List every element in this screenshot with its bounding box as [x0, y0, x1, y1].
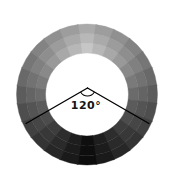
angle-arc: [81, 92, 95, 96]
ring-segment: [80, 43, 94, 53]
angle-label: 120°: [71, 99, 101, 112]
ring-segment: [128, 87, 138, 101]
ring-segments: [16, 24, 157, 165]
ring-segment: [80, 136, 94, 146]
ring-segment: [35, 87, 45, 101]
ring-segment: [77, 24, 96, 34]
ring-segment: [79, 33, 96, 43]
ring-segment: [147, 85, 157, 104]
figure-canvas: 120°: [0, 0, 171, 180]
grayscale-ring-figure: 120°: [0, 0, 171, 180]
ring-segment: [26, 86, 36, 103]
ring-segment: [16, 85, 26, 104]
ring-segment: [138, 86, 148, 103]
ring-segment: [79, 146, 96, 156]
ring-segment: [77, 155, 96, 165]
